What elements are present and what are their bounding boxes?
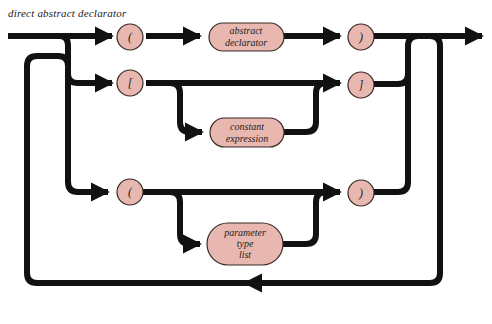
svg-text:]: ]	[358, 78, 364, 92]
svg-text:list: list	[239, 249, 251, 260]
node-abstract-declarator: abstract declarator	[209, 23, 284, 51]
node-close-paren-bottom: )	[348, 180, 374, 206]
svg-text:abstract: abstract	[230, 25, 263, 36]
svg-text:declarator: declarator	[225, 37, 267, 48]
svg-text:): )	[358, 30, 363, 44]
syntax-diagram: ( abstract declarator ) [ constant expre…	[0, 0, 492, 324]
svg-text:constant: constant	[230, 121, 264, 132]
node-parameter-type-list: parameter type list	[207, 223, 283, 265]
svg-text:type: type	[237, 238, 254, 249]
node-open-paren-top: (	[117, 24, 143, 50]
svg-text:parameter: parameter	[223, 227, 266, 238]
node-close-bracket: ]	[348, 72, 374, 98]
svg-text:): )	[358, 186, 363, 200]
node-constant-expression: constant expression	[210, 118, 284, 147]
svg-text:expression: expression	[226, 133, 268, 144]
node-open-bracket: [	[117, 70, 143, 96]
node-open-paren-bottom: (	[117, 179, 143, 205]
node-close-paren-top: )	[348, 24, 374, 50]
